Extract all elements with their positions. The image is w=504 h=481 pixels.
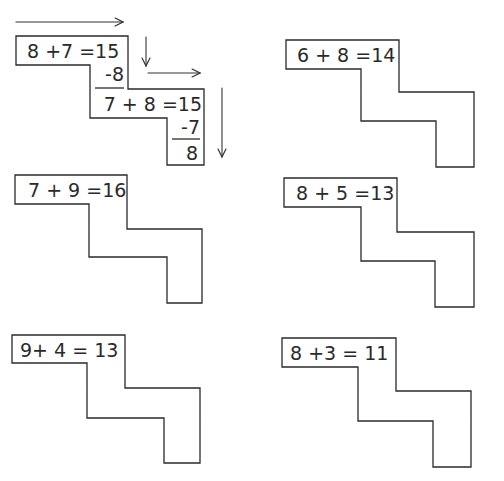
example-second-equation: 7 + 8 =15 — [104, 93, 202, 115]
problem-staircase: 9+ 4 = 13 — [12, 335, 200, 463]
problem-staircase: 6 + 8 =14 — [286, 40, 474, 167]
problem-equation: 9+ 4 = 13 — [20, 339, 118, 361]
problem-staircase: 8 +3 = 11 — [282, 338, 471, 467]
problem-equation: 8 +3 = 11 — [290, 342, 388, 364]
problem-staircase: 8 + 5 =13 — [284, 178, 474, 307]
example-staircase: 8 +7 =15 -8 7 + 8 =15 -7 8 — [16, 22, 222, 165]
problem-equation: 8 + 5 =13 — [296, 182, 394, 204]
staircase-worksheet: 8 +7 =15 -8 7 + 8 =15 -7 8 6 + 8 =14 7 +… — [0, 0, 504, 481]
problem-equation: 7 + 9 =16 — [28, 179, 126, 201]
example-subtract-second: -7 — [181, 116, 200, 138]
problem-staircase: 7 + 9 =16 — [15, 175, 202, 303]
problem-equation: 6 + 8 =14 — [297, 44, 395, 66]
example-subtract-first: -8 — [105, 63, 124, 85]
example-first-equation: 8 +7 =15 — [27, 40, 119, 62]
example-result: 8 — [186, 142, 198, 164]
